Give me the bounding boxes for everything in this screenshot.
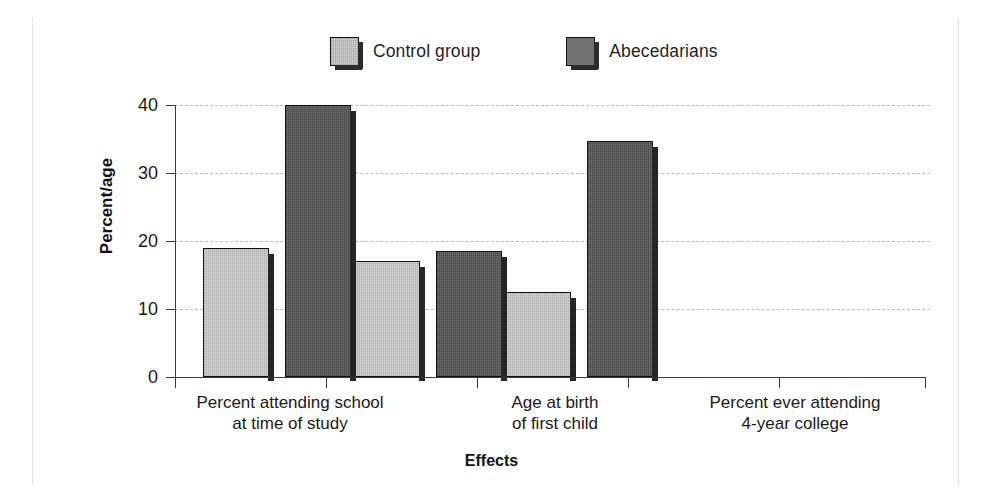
legend-swatch-icon bbox=[330, 37, 359, 66]
legend-item-label: Abecedarians bbox=[609, 41, 717, 62]
x-axis-separator bbox=[628, 377, 629, 388]
x-axis-separator bbox=[175, 377, 176, 388]
page-rule-right bbox=[958, 18, 959, 484]
bar-control-group[interactable] bbox=[505, 292, 571, 377]
bar-abecedarians[interactable] bbox=[587, 141, 653, 377]
x-axis-line bbox=[175, 377, 926, 378]
y-axis-line bbox=[175, 105, 176, 377]
legend-item-control-group[interactable]: Control group bbox=[330, 37, 480, 66]
y-tick-label: 10 bbox=[118, 299, 158, 320]
y-tick-mark bbox=[166, 241, 175, 242]
x-category-label: Age at birth of first child bbox=[445, 392, 665, 434]
legend-item-abecedarians[interactable]: Abecedarians bbox=[566, 37, 717, 66]
chart-legend: Control group Abecedarians bbox=[330, 34, 800, 68]
chart-figure: Control group Abecedarians 40 30 20 10 0… bbox=[0, 0, 983, 500]
y-axis-title: Percent/age bbox=[97, 146, 117, 266]
x-axis-title: Effects bbox=[0, 452, 983, 470]
x-axis-separator bbox=[477, 377, 478, 388]
x-axis-separator bbox=[326, 377, 327, 388]
x-axis-separator bbox=[925, 377, 926, 388]
y-tick-label: 20 bbox=[118, 231, 158, 252]
y-tick-mark bbox=[166, 377, 175, 378]
page-rule-left bbox=[32, 18, 33, 484]
bar-control-group[interactable] bbox=[354, 261, 420, 377]
y-tick-mark bbox=[166, 105, 175, 106]
x-category-label: Percent attending school at time of stud… bbox=[160, 392, 420, 434]
y-axis-tick-labels: 40 30 20 10 0 bbox=[118, 0, 158, 500]
plot-area bbox=[175, 105, 930, 377]
y-tick-label: 40 bbox=[118, 95, 158, 116]
y-tick-mark bbox=[166, 173, 175, 174]
x-axis-separator bbox=[779, 377, 780, 388]
y-tick-mark bbox=[166, 309, 175, 310]
y-tick-label: 0 bbox=[118, 367, 158, 388]
bar-abecedarians[interactable] bbox=[285, 105, 351, 377]
legend-swatch-icon bbox=[566, 37, 595, 66]
x-category-label: Percent ever attending 4-year college bbox=[665, 392, 925, 434]
y-tick-label: 30 bbox=[118, 163, 158, 184]
bar-control-group[interactable] bbox=[203, 248, 269, 377]
legend-item-label: Control group bbox=[373, 41, 480, 62]
bar-abecedarians[interactable] bbox=[436, 251, 502, 377]
